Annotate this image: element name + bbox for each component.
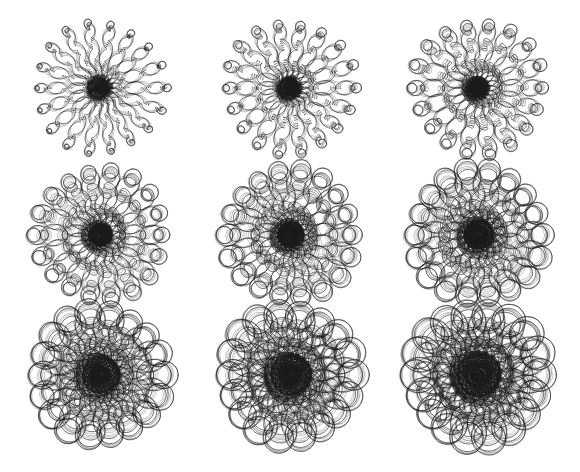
figure-root: Three-by-three grid of radial loop curve… <box>0 0 580 472</box>
curve-grid-canvas <box>0 0 580 472</box>
